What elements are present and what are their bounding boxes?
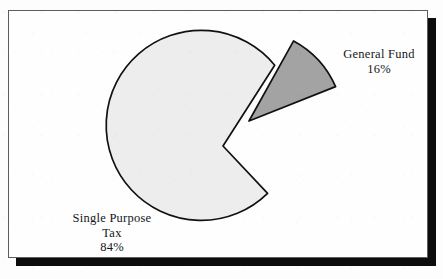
pie-label-single-purpose-tax-name-line1: Single Purpose <box>57 211 167 226</box>
pie-label-general-fund-percent: 16% <box>327 62 431 77</box>
pie-slice-single-purpose-tax <box>106 30 275 220</box>
pie-label-single-purpose-tax: Single Purpose Tax 84% <box>57 211 167 255</box>
figure-page: General Fund 16% Single Purpose Tax 84% <box>0 0 443 279</box>
pie-label-single-purpose-tax-name-line2: Tax <box>57 226 167 241</box>
pie-label-single-purpose-tax-percent: 84% <box>57 240 167 255</box>
pie-label-general-fund-name: General Fund <box>327 47 431 62</box>
chart-frame: General Fund 16% Single Purpose Tax 84% <box>8 10 428 258</box>
pie-label-general-fund: General Fund 16% <box>327 47 431 76</box>
pie-chart: General Fund 16% Single Purpose Tax 84% <box>9 11 427 257</box>
